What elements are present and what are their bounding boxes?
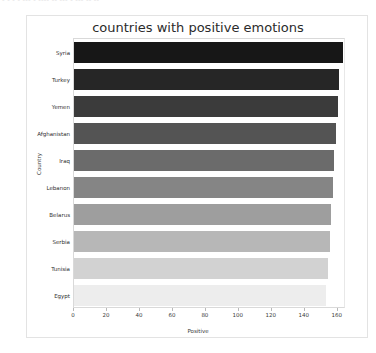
bar <box>74 42 343 63</box>
bar <box>74 150 334 171</box>
y-axis-label: Country <box>36 134 42 194</box>
x-tick-label: 80 <box>201 312 208 318</box>
y-tick-label: Yemen <box>52 104 70 110</box>
bar-row: Turkey <box>74 69 344 90</box>
chart-title: countries with positive emotions <box>27 20 369 35</box>
x-axis: 020406080100120140160 <box>73 308 345 326</box>
x-tick-mark <box>337 308 338 311</box>
ghost-text: - - - - --- - ---- -- --- - --- -- -- <box>2 0 99 4</box>
y-tick-label: Turkey <box>52 77 70 83</box>
x-tick-label: 140 <box>299 312 310 318</box>
x-axis-label: Positive <box>27 328 369 334</box>
bar-row: Belarus <box>74 204 344 225</box>
bar-row: Tunisia <box>74 258 344 279</box>
bar-row: Iraq <box>74 150 344 171</box>
x-tick-label: 120 <box>266 312 277 318</box>
plot-area: SyriaTurkeyYemenAfghanistanIraqLebanonBe… <box>73 38 345 308</box>
bar-row: Afghanistan <box>74 123 344 144</box>
x-tick-mark <box>139 308 140 311</box>
y-tick-label: Egypt <box>54 293 70 299</box>
x-tick-label: 20 <box>102 312 109 318</box>
y-tick-label: Afghanistan <box>37 131 70 137</box>
x-tick-mark <box>172 308 173 311</box>
bar <box>74 177 333 198</box>
bar <box>74 204 331 225</box>
bar <box>74 96 338 117</box>
y-tick-label: Lebanon <box>46 185 70 191</box>
x-tick-label: 100 <box>233 312 244 318</box>
y-tick-label: Belarus <box>49 212 70 218</box>
page-top-ghost-strip: - - - - --- - ---- -- --- - --- -- -- <box>0 0 376 12</box>
chart-figure: countries with positive emotions Country… <box>26 15 368 338</box>
x-tick-mark <box>73 308 74 311</box>
bar <box>74 285 326 306</box>
bar-row: Serbia <box>74 231 344 252</box>
bar <box>74 123 336 144</box>
y-tick-label: Tunisia <box>51 266 70 272</box>
bar <box>74 258 328 279</box>
bar <box>74 69 339 90</box>
y-tick-label: Serbia <box>52 239 70 245</box>
y-tick-label: Iraq <box>59 158 70 164</box>
x-tick-label: 60 <box>168 312 175 318</box>
x-tick-label: 160 <box>332 312 343 318</box>
x-tick-mark <box>205 308 206 311</box>
bar-series: SyriaTurkeyYemenAfghanistanIraqLebanonBe… <box>74 39 344 307</box>
bar <box>74 231 330 252</box>
x-tick-mark <box>106 308 107 311</box>
y-tick-label: Syria <box>56 50 70 56</box>
bar-row: Yemen <box>74 96 344 117</box>
x-tick-mark <box>271 308 272 311</box>
x-tick-mark <box>304 308 305 311</box>
x-tick-label: 0 <box>71 312 75 318</box>
x-tick-label: 40 <box>135 312 142 318</box>
x-tick-mark <box>238 308 239 311</box>
bar-row: Syria <box>74 42 344 63</box>
bar-row: Egypt <box>74 285 344 306</box>
bar-row: Lebanon <box>74 177 344 198</box>
